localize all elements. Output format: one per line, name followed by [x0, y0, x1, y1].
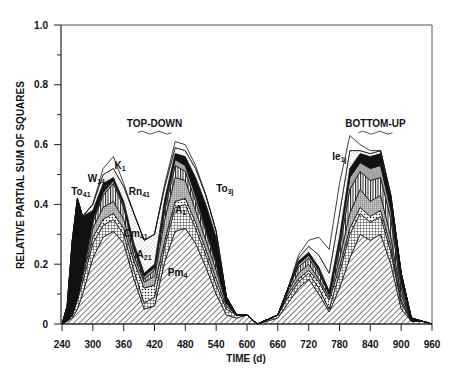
x-tick-label: 300: [84, 339, 101, 350]
x-tick-label: 840: [362, 339, 379, 350]
annotation-to3j: To3j: [216, 183, 233, 196]
y-axis-title: RELATIVE PARTIAL SUM OF SQUARES: [15, 81, 26, 269]
x-tick-label: 900: [393, 339, 410, 350]
x-tick-label: 420: [146, 339, 163, 350]
x-tick-label: 660: [269, 339, 286, 350]
annotation-ie1j: Ie1j: [332, 151, 346, 164]
x-tick-label: 540: [208, 339, 225, 350]
y-tick-label: 0.6: [34, 139, 48, 150]
x-axis-title: TIME (d): [226, 353, 265, 364]
x-tick-label: 480: [177, 339, 194, 350]
group-label: TOP-DOWN: [127, 118, 182, 129]
annotation-k1: K1: [114, 160, 125, 172]
y-tick-label: 1.0: [34, 20, 48, 31]
x-tick-label: 240: [54, 339, 71, 350]
x-tick-label: 360: [115, 339, 132, 350]
x-tick-label: 600: [239, 339, 256, 350]
y-tick-label: 0.2: [34, 259, 48, 270]
y-tick-label: 0.4: [34, 199, 48, 210]
y-tick-label: 0: [42, 319, 48, 330]
area-pm4: [62, 228, 432, 324]
y-tick-label: 0.8: [34, 79, 48, 90]
x-tick-label: 720: [300, 339, 317, 350]
x-axis-ticks: 240300360420480540600660720780840900960: [54, 324, 441, 350]
group-label: BOTTOM-UP: [345, 118, 406, 129]
x-tick-label: 960: [424, 339, 441, 350]
annotation-to41: To41: [71, 186, 90, 198]
annotation-cm41: Cm41: [124, 228, 148, 240]
x-tick-label: 780: [331, 339, 348, 350]
annotation-rn41: Rn41: [129, 186, 150, 198]
group-labels: TOP-DOWNBOTTOM-UP: [127, 118, 406, 135]
y-axis-ticks: 00.20.40.60.81.0: [34, 20, 61, 330]
chart: 00.20.40.60.81.0 24030036042048054060066…: [0, 0, 457, 382]
